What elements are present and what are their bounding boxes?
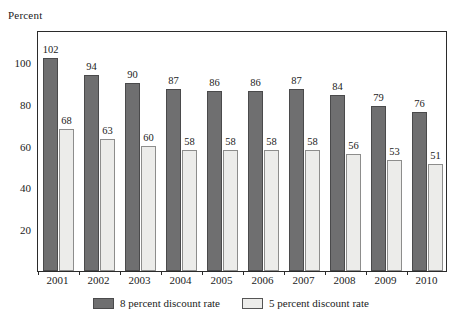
legend-swatch-5-percent [242, 298, 263, 309]
bar-group: 8456 [330, 32, 361, 271]
bar-value-label: 87 [291, 75, 302, 86]
bar-group: 8758 [166, 32, 197, 271]
y-tick-label: 60 [5, 141, 31, 153]
x-tick-label: 2005 [199, 274, 245, 286]
bar-5-percent[interactable]: 53 [387, 160, 402, 271]
bar-value-label: 84 [332, 81, 343, 92]
legend-label: 8 percent discount rate [120, 297, 220, 309]
x-tick-label: 2010 [404, 274, 450, 286]
bar-group: 9060 [125, 32, 156, 271]
bar-value-label: 68 [61, 115, 72, 126]
legend-label: 5 percent discount rate [269, 297, 369, 309]
bar-value-label: 60 [143, 132, 154, 143]
bar-group: 7651 [412, 32, 443, 271]
x-tick-label: 2001 [35, 274, 81, 286]
bar-group: 8658 [248, 32, 279, 271]
bar-5-percent[interactable]: 58 [182, 150, 197, 271]
bar-group: 8758 [289, 32, 320, 271]
legend-swatch-8-percent [93, 298, 114, 309]
bar-5-percent[interactable]: 68 [59, 129, 74, 271]
x-tick-label: 2003 [117, 274, 163, 286]
y-tick-label: 40 [5, 182, 31, 194]
bar-8-percent[interactable]: 102 [43, 58, 58, 271]
bar-value-label: 58 [266, 136, 277, 147]
bar-8-percent[interactable]: 90 [125, 83, 140, 271]
chart-page: Percent 20406080100 10268946390608758865… [0, 0, 462, 324]
x-tick-label: 2004 [158, 274, 204, 286]
bar-8-percent[interactable]: 86 [207, 91, 222, 271]
legend-item[interactable]: 8 percent discount rate [93, 297, 220, 309]
bar-group: 8658 [207, 32, 238, 271]
bar-8-percent[interactable]: 79 [371, 106, 386, 271]
bar-8-percent[interactable]: 86 [248, 91, 263, 271]
bar-group: 7953 [371, 32, 402, 271]
bar-value-label: 86 [209, 77, 220, 88]
bar-value-label: 56 [348, 140, 359, 151]
bar-8-percent[interactable]: 87 [166, 89, 181, 271]
bar-value-label: 87 [168, 75, 179, 86]
bar-value-label: 79 [373, 92, 384, 103]
x-tick-label: 2007 [281, 274, 327, 286]
bar-value-label: 90 [127, 69, 138, 80]
bar-value-label: 58 [184, 136, 195, 147]
x-tick-label: 2009 [363, 274, 409, 286]
bar-5-percent[interactable]: 60 [141, 146, 156, 271]
bar-8-percent[interactable]: 94 [84, 75, 99, 271]
bar-value-label: 58 [307, 136, 318, 147]
y-tick-label: 20 [5, 224, 31, 236]
bar-5-percent[interactable]: 63 [100, 139, 115, 271]
bar-8-percent[interactable]: 76 [412, 112, 427, 271]
bar-value-label: 51 [430, 150, 441, 161]
bar-group: 9463 [84, 32, 115, 271]
bar-value-label: 94 [86, 61, 97, 72]
y-tick-label: 80 [5, 99, 31, 111]
legend-item[interactable]: 5 percent discount rate [242, 297, 369, 309]
y-tick-label: 100 [5, 57, 31, 69]
x-tick-label: 2006 [240, 274, 286, 286]
bar-5-percent[interactable]: 58 [305, 150, 320, 271]
x-tick-label: 2008 [322, 274, 368, 286]
bar-value-label: 58 [225, 136, 236, 147]
x-tick-label: 2002 [76, 274, 122, 286]
bar-value-label: 102 [43, 44, 59, 55]
bar-5-percent[interactable]: 58 [223, 150, 238, 271]
bar-value-label: 86 [250, 77, 261, 88]
bar-5-percent[interactable]: 58 [264, 150, 279, 271]
bar-group: 10268 [43, 32, 74, 271]
chart-legend: 8 percent discount rate5 percent discoun… [0, 297, 462, 309]
y-axis-title: Percent [8, 9, 42, 21]
bar-5-percent[interactable]: 51 [428, 164, 443, 271]
bar-8-percent[interactable]: 84 [330, 95, 345, 271]
bar-value-label: 53 [389, 146, 400, 157]
bar-value-label: 63 [102, 125, 113, 136]
plot-area: 1026894639060875886588658875884567953765… [37, 31, 447, 272]
bar-value-label: 76 [414, 98, 425, 109]
bar-5-percent[interactable]: 56 [346, 154, 361, 271]
bar-8-percent[interactable]: 87 [289, 89, 304, 271]
